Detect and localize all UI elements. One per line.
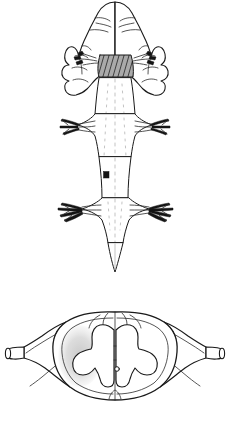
section-level-marker	[104, 172, 110, 179]
thoracic-cord	[99, 157, 131, 198]
cervical-cord-segment	[95, 78, 135, 114]
filum-terminale	[108, 243, 123, 272]
central-canal	[115, 367, 120, 372]
lumbar-enlargement	[82, 198, 149, 243]
anatomy-figure	[0, 0, 231, 441]
panel-transverse-section	[0, 300, 231, 441]
cervical-enlargement	[78, 114, 152, 157]
cut-nerve-stump-right	[206, 347, 225, 359]
cut-nerve-stump-left	[5, 347, 24, 359]
panel-dorsal-view	[0, 0, 231, 290]
